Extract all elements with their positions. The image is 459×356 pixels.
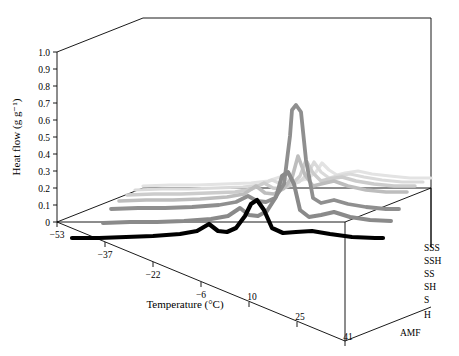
x-axis-ticks: −53 −37 −22 −6 10 25: [50, 222, 353, 346]
y-tick-label: 0.2: [38, 184, 50, 194]
y-axis-title: Heat flow (g g⁻¹): [10, 98, 23, 175]
legend-item-amf: AMF: [400, 328, 421, 338]
y-tick-label: 0.8: [38, 82, 50, 92]
legend-item-ss: SS: [424, 269, 435, 279]
y-tick-label: 0.4: [38, 150, 50, 160]
legend-item-sh: SH: [424, 282, 436, 292]
legend-item-ssh: SSH: [424, 256, 442, 266]
y-tick-label: 0.9: [38, 65, 50, 75]
y-tick-label: 1.0: [38, 48, 50, 58]
legend-item-s: S: [424, 295, 429, 305]
y-tick-label: 0: [45, 218, 50, 228]
legend-item-sss: SSS: [424, 243, 440, 253]
x-tick-label: −53: [50, 230, 65, 240]
series-AMF: [72, 200, 383, 238]
y-tick-label: 0.1: [38, 201, 50, 211]
chart-figure: 1.0 0.9 0.8 0.7 0.6 0.5: [0, 0, 459, 356]
y-tick-label: 0.3: [38, 167, 50, 177]
x-tick-label: −22: [146, 270, 161, 280]
y-tick-label: 0.6: [38, 116, 50, 126]
legend: SSS SSH SS SH S H AMF: [400, 243, 442, 338]
y-axis-ticks: 1.0 0.9 0.8 0.7 0.6 0.5: [38, 48, 57, 228]
y-tick-label: 0.5: [38, 133, 50, 143]
x-tick-label: 10: [247, 292, 257, 302]
legend-item-h: H: [424, 310, 431, 320]
x-tick-label: −37: [98, 250, 113, 260]
x-axis-title: Temperature (°C): [146, 298, 224, 311]
x-tick-label: 25: [295, 312, 305, 322]
y-tick-label: 0.7: [38, 99, 50, 109]
chart-canvas: 1.0 0.9 0.8 0.7 0.6 0.5: [0, 0, 459, 356]
